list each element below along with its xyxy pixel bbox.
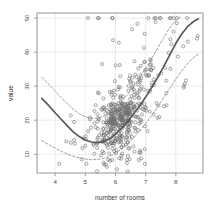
x-tick-label: 8	[174, 178, 178, 185]
x-tick-label: 4	[53, 178, 57, 185]
y-tick-label: 50	[23, 14, 30, 21]
x-tick-label: 7	[144, 178, 148, 185]
x-tick-label: 6	[114, 178, 118, 185]
grid-lines	[37, 13, 203, 173]
plot-frame	[37, 13, 203, 173]
x-tick-label: 5	[84, 178, 88, 185]
scatter-plot-figure: 456781020304050 number of rooms value	[0, 0, 214, 210]
y-axis-title: value	[7, 85, 14, 101]
x-axis-title: number of rooms	[95, 194, 146, 201]
y-tick-label: 20	[23, 116, 30, 123]
y-tick-label: 30	[23, 82, 30, 89]
y-tick-label: 10	[23, 150, 30, 157]
plot-svg: 456781020304050 number of rooms value	[0, 0, 214, 210]
y-tick-label: 40	[23, 48, 30, 55]
